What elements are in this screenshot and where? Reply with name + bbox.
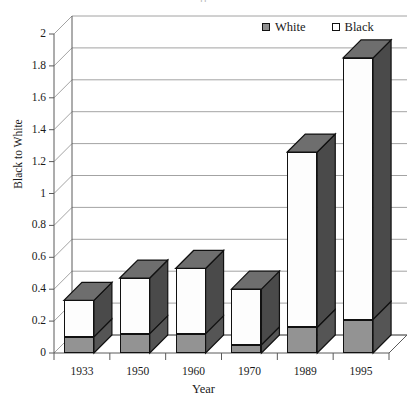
bar-segment-black-1995[interactable] [343,58,373,320]
plot-area: 00.20.40.60.811.21.41.61.82 193319501960… [0,0,407,408]
chart-container: fi White Black Black to White Year 00.20… [0,0,407,408]
bar-segment-white-1995[interactable] [343,320,373,353]
